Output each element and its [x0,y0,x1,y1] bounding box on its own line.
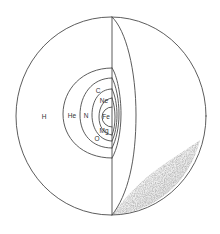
label-he: He [68,112,77,119]
cut-face-edge [112,17,136,215]
label-o: O [94,135,99,142]
label-n: N [84,112,89,119]
element-labels: H He N C Ne Fe Mg O [42,87,111,142]
stellar-layers-diagram: H He N C Ne Fe Mg O [0,0,220,234]
label-fe: Fe [102,113,110,120]
label-mg: Mg [99,127,108,135]
surface-shading [112,140,200,215]
label-c: C [96,87,101,94]
label-ne: Ne [100,97,109,104]
label-h: H [42,113,47,120]
